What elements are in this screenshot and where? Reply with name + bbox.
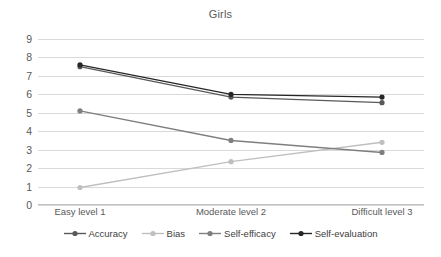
data-point-bias [77,185,82,190]
data-point-self-efficacy [228,138,233,143]
y-axis-tick-label: 5 [2,107,32,119]
legend-item-self-evaluation[interactable]: Self-evaluation [290,228,378,239]
y-axis-tick-label: 8 [2,51,32,63]
legend-item-accuracy[interactable]: Accuracy [64,228,128,239]
y-axis-tick-label: 2 [2,162,32,174]
legend-label: Bias [167,228,185,239]
y-axis-tick-label: 1 [2,181,32,193]
chart-container: Girls 9876543210 Easy level 1Moderate le… [0,0,441,257]
x-axis-tick-label: Difficult level 3 [351,206,412,217]
data-point-bias [228,159,233,164]
legend-marker-icon [290,229,312,238]
legend-marker-icon [64,229,86,238]
data-point-self-efficacy [77,108,82,113]
data-point-self-evaluation [379,95,384,100]
y-axis: 9876543210 [0,39,32,205]
y-axis-tick-label: 3 [2,144,32,156]
data-point-self-evaluation [228,92,233,97]
chart-title: Girls [0,8,441,20]
data-point-accuracy [379,100,384,105]
x-axis: Easy level 1Moderate level 2Difficult le… [38,206,424,222]
data-point-self-evaluation [77,62,82,67]
plot-area [38,39,424,205]
data-point-self-efficacy [379,150,384,155]
series-line-self-efficacy [80,111,382,153]
data-point-bias [379,140,384,145]
y-axis-tick-label: 7 [2,70,32,82]
legend-marker-icon [142,229,164,238]
legend-label: Self-evaluation [315,228,378,239]
x-axis-tick-label: Easy level 1 [54,206,105,217]
legend-label: Self-efficacy [224,228,276,239]
y-axis-tick-label: 6 [2,88,32,100]
chart-legend: AccuracyBiasSelf-efficacySelf-evaluation [0,228,441,239]
legend-item-self-efficacy[interactable]: Self-efficacy [199,228,276,239]
series-layer [38,39,424,205]
x-axis-tick-label: Moderate level 2 [196,206,266,217]
y-axis-tick-label: 4 [2,125,32,137]
legend-marker-icon [199,229,221,238]
legend-label: Accuracy [89,228,128,239]
y-axis-tick-label: 9 [2,33,32,45]
legend-item-bias[interactable]: Bias [142,228,185,239]
y-axis-tick-label: 0 [2,199,32,211]
